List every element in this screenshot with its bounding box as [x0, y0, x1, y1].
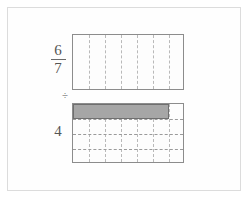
fraction-label-six-sevenths: 6 7 — [48, 43, 68, 76]
fraction-numerator: 6 — [48, 43, 68, 58]
row-divider-1 — [73, 119, 183, 120]
figure-canvas: 6 7 ÷ 4 — [0, 0, 250, 200]
shaded-region — [73, 104, 169, 119]
divisor-area-model — [72, 103, 184, 163]
column-divider-6 — [169, 104, 170, 162]
dividend-area-model — [72, 34, 184, 90]
column-divider-3 — [121, 35, 122, 89]
divisor-label-four: 4 — [48, 124, 68, 139]
column-divider-2 — [105, 35, 106, 89]
column-divider-1 — [89, 35, 90, 89]
fraction-denominator: 7 — [48, 61, 68, 76]
column-divider-4 — [137, 35, 138, 89]
divide-operator-symbol: ÷ — [62, 90, 68, 101]
row-divider-3 — [73, 149, 183, 150]
column-divider-5 — [153, 35, 154, 89]
column-divider-6 — [169, 35, 170, 89]
row-divider-2 — [73, 134, 183, 135]
